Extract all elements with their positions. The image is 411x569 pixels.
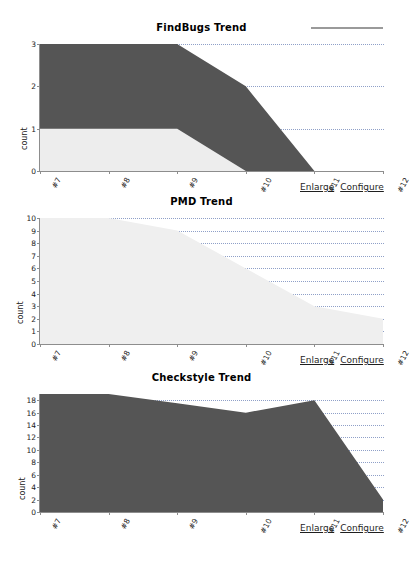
y-tick-mark [37,86,40,87]
y-tick-mark [37,256,40,257]
pmd-series-layer [40,218,384,344]
y-tick-mark [37,294,40,295]
checkstyle-series-layer [40,394,384,512]
y-tick-label: 0 [18,167,36,176]
y-tick-label: 0 [18,508,36,517]
y-tick-label: 4 [18,289,36,298]
y-tick-label: 6 [18,470,36,479]
x-tick-label: #8 [118,349,131,363]
configure-link-pmd[interactable]: Configure [340,355,384,365]
y-tick-mark [37,400,40,401]
y-tick-mark [37,475,40,476]
x-tick-mark [177,344,178,347]
y-tick-label: 4 [18,483,36,492]
x-tick-mark [383,512,384,515]
y-tick-label: 0 [18,340,36,349]
chart-title-pmd: PMD Trend [0,196,403,207]
configure-link-checkstyle[interactable]: Configure [340,523,384,533]
y-tick-label: 6 [18,264,36,273]
y-tick-label: 8 [18,239,36,248]
x-tick-label: #12 [395,349,410,367]
y-tick-mark [37,306,40,307]
y-tick-label: 16 [18,408,36,417]
x-tick-mark [177,171,178,174]
x-tick-label: #10 [258,517,273,535]
y-tick-label: 8 [18,458,36,467]
y-tick-mark [37,281,40,282]
x-tick-mark [40,344,41,347]
x-tick-mark [40,171,41,174]
x-tick-label: #12 [395,176,410,194]
y-tick-label: 9 [18,226,36,235]
y-tick-label: 3 [18,40,36,49]
y-tick-label: 12 [18,433,36,442]
x-tick-label: #8 [118,517,131,531]
y-tick-mark [37,437,40,438]
y-tick-label: 5 [18,277,36,286]
x-tick-mark [109,344,110,347]
plot-area-pmd: 012345678910#7#8#9#10#11#12 [39,218,384,345]
plot-area-checkstyle: 024681012141618#7#8#9#10#11#12 [39,394,384,513]
enlarge-link-checkstyle[interactable]: Enlarge [300,523,334,533]
chart-panel-pmd: PMD Trend count 012345678910#7#8#9#10#11… [0,196,403,376]
y-tick-label: 7 [18,251,36,260]
y-tick-mark [37,450,40,451]
y-tick-label: 14 [18,421,36,430]
y-tick-label: 2 [18,495,36,504]
y-tick-mark [37,425,40,426]
y-tick-mark [37,331,40,332]
x-tick-label: #7 [50,517,63,531]
y-tick-mark [37,319,40,320]
x-tick-label: #10 [258,176,273,194]
x-tick-mark [177,512,178,515]
x-tick-mark [246,344,247,347]
x-tick-mark [40,512,41,515]
x-tick-label: #12 [395,517,410,535]
x-tick-mark [109,512,110,515]
x-tick-mark [383,171,384,174]
x-tick-mark [383,344,384,347]
y-tick-label: 2 [18,314,36,323]
y-tick-mark [37,500,40,501]
y-tick-mark [37,413,40,414]
x-tick-label: #7 [50,349,63,363]
x-tick-label: #9 [187,349,200,363]
x-tick-mark [314,344,315,347]
chart-panel-checkstyle: Checkstyle Trend count 024681012141618#7… [0,372,403,552]
plot-area-findbugs: 0123#7#8#9#10#11#12 [39,44,384,172]
x-tick-label: #10 [258,349,273,367]
y-tick-label: 1 [18,327,36,336]
y-tick-mark [37,243,40,244]
chart-title-checkstyle: Checkstyle Trend [0,372,403,383]
chart-actions-pmd: EnlargeConfigure [300,355,384,365]
y-tick-mark [37,44,40,45]
y-tick-mark [37,268,40,269]
y-tick-label: 18 [18,396,36,405]
y-tick-label: 10 [18,445,36,454]
x-tick-mark [314,171,315,174]
x-tick-mark [314,512,315,515]
y-tick-label: 1 [18,124,36,133]
y-tick-label: 2 [18,82,36,91]
chart-panel-findbugs: FindBugs Trend count 0123#7#8#9#10#11#12… [0,22,403,200]
y-tick-mark [37,487,40,488]
y-tick-label: 10 [18,214,36,223]
y-tick-mark [37,231,40,232]
x-tick-label: #9 [187,517,200,531]
chart-title-findbugs: FindBugs Trend [0,22,403,33]
configure-link-findbugs[interactable]: Configure [340,182,384,192]
findbugs-series-layer [40,44,384,171]
y-tick-label: 3 [18,302,36,311]
chart-actions-findbugs: EnlargeConfigure [300,182,384,192]
y-tick-mark [37,129,40,130]
enlarge-link-findbugs[interactable]: Enlarge [300,182,334,192]
y-tick-mark [37,218,40,219]
x-tick-label: #8 [118,176,131,190]
pmd-area-low [40,218,383,344]
chart-actions-checkstyle: EnlargeConfigure [300,523,384,533]
x-tick-label: #9 [187,176,200,190]
enlarge-link-pmd[interactable]: Enlarge [300,355,334,365]
x-tick-label: #7 [50,176,63,190]
x-tick-mark [246,512,247,515]
